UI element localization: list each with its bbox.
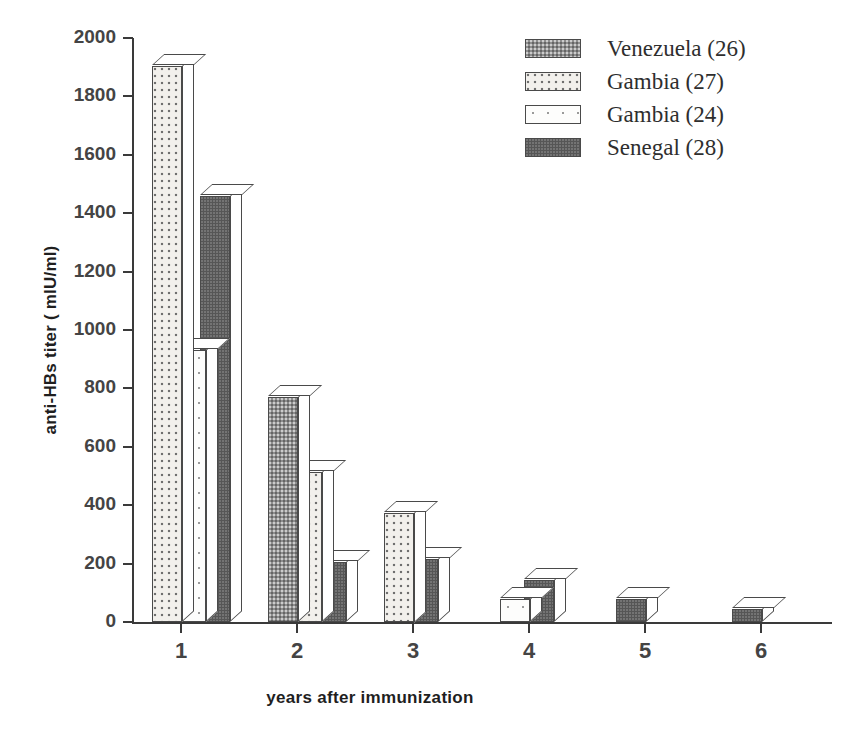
y-axis-tick-label: 800 bbox=[0, 376, 116, 398]
legend-item: Venezuela (26) bbox=[525, 32, 845, 65]
y-axis-tick-label: 1600 bbox=[0, 143, 116, 165]
bar-front-face bbox=[732, 609, 762, 622]
bar-top-face bbox=[268, 385, 322, 396]
y-axis-tick bbox=[123, 446, 133, 448]
bar bbox=[732, 597, 762, 622]
y-axis-tick-label: 1400 bbox=[0, 201, 116, 223]
x-axis-tick-label: 6 bbox=[731, 638, 791, 664]
legend-label: Senegal (28) bbox=[607, 135, 724, 161]
y-axis-tick bbox=[123, 504, 133, 506]
bar-side-face bbox=[206, 340, 218, 622]
x-axis-line bbox=[132, 622, 832, 624]
y-axis-tick-label: 200 bbox=[0, 552, 116, 574]
y-axis-tick-label: 2000 bbox=[0, 26, 116, 48]
x-axis-tick-label: 1 bbox=[151, 638, 211, 664]
y-axis-tick-label: 1200 bbox=[0, 260, 116, 282]
bar bbox=[152, 54, 182, 622]
bar-top-face bbox=[384, 501, 438, 512]
legend-swatch bbox=[525, 72, 581, 91]
chart-figure: anti-HBs titer ( mIU/ml) years after imm… bbox=[0, 0, 863, 734]
bar-side-face bbox=[298, 386, 310, 622]
y-axis-tick bbox=[123, 329, 133, 331]
bar-top-face bbox=[732, 597, 786, 608]
y-axis-tick-label: 400 bbox=[0, 493, 116, 515]
x-axis-title: years after immunization bbox=[0, 688, 740, 708]
bar-front-face bbox=[500, 599, 530, 622]
y-axis-tick bbox=[123, 387, 133, 389]
y-axis-tick-label: 0 bbox=[0, 610, 116, 632]
x-axis-tick-label: 2 bbox=[267, 638, 327, 664]
bar-top-face bbox=[616, 587, 670, 598]
y-axis-tick bbox=[123, 621, 133, 623]
y-axis-tick bbox=[123, 271, 133, 273]
x-axis-tick-label: 4 bbox=[499, 638, 559, 664]
bar-side-face bbox=[230, 185, 242, 622]
y-axis-tick bbox=[123, 212, 133, 214]
legend-label: Gambia (27) bbox=[607, 69, 724, 95]
bar-front-face bbox=[384, 513, 414, 623]
bar-side-face bbox=[414, 502, 426, 622]
bar-top-face bbox=[152, 54, 206, 65]
bar-front-face bbox=[152, 66, 182, 622]
legend-swatch bbox=[525, 39, 581, 58]
bar-front-face bbox=[268, 397, 298, 622]
bar-side-face bbox=[182, 55, 194, 622]
x-axis-tick-label: 3 bbox=[383, 638, 443, 664]
bar bbox=[616, 587, 646, 622]
bar-top-face bbox=[200, 184, 254, 195]
y-axis-tick-label: 1000 bbox=[0, 318, 116, 340]
y-axis-tick-label: 1800 bbox=[0, 84, 116, 106]
legend: Venezuela (26)Gambia (27)Gambia (24)Sene… bbox=[525, 32, 845, 164]
bar bbox=[384, 501, 414, 623]
legend-label: Venezuela (26) bbox=[607, 36, 746, 62]
legend-item: Senegal (28) bbox=[525, 131, 845, 164]
x-axis-tick bbox=[296, 622, 298, 633]
y-axis-tick bbox=[123, 95, 133, 97]
bar-side-face bbox=[346, 551, 358, 622]
y-axis-tick bbox=[123, 37, 133, 39]
y-axis-tick-label: 600 bbox=[0, 435, 116, 457]
bar-side-face bbox=[438, 548, 450, 622]
legend-label: Gambia (24) bbox=[607, 102, 724, 128]
y-axis-tick bbox=[123, 154, 133, 156]
x-axis-tick bbox=[760, 622, 762, 633]
legend-swatch bbox=[525, 105, 581, 124]
x-axis-tick bbox=[528, 622, 530, 633]
bar-front-face bbox=[616, 599, 646, 622]
legend-item: Gambia (24) bbox=[525, 98, 845, 131]
bar bbox=[268, 385, 298, 622]
y-axis-tick bbox=[123, 563, 133, 565]
y-axis-line bbox=[132, 38, 134, 624]
bar-side-face bbox=[322, 461, 334, 622]
x-axis-tick bbox=[644, 622, 646, 633]
bar bbox=[500, 587, 530, 622]
bar-top-face bbox=[524, 568, 578, 579]
x-axis-tick-label: 5 bbox=[615, 638, 675, 664]
legend-swatch bbox=[525, 138, 581, 157]
x-axis-tick bbox=[180, 622, 182, 633]
legend-item: Gambia (27) bbox=[525, 65, 845, 98]
x-axis-tick bbox=[412, 622, 414, 633]
